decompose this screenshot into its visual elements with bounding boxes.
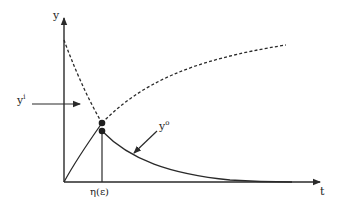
output-label: yo — [159, 120, 169, 132]
x-axis-label: t — [320, 186, 324, 197]
output-label-sup: o — [165, 119, 169, 127]
dashed-increasing-curve — [102, 45, 286, 123]
input-label-sup: i — [23, 93, 25, 101]
switch-time-label: η(ε) — [90, 187, 109, 197]
diagram-canvas: y t yi yo η(ε) — [0, 0, 337, 207]
solid-decaying-curve — [102, 131, 292, 182]
output-arrow — [134, 131, 157, 153]
upper-switch-dot — [99, 120, 106, 127]
y-axis-label: y — [53, 10, 59, 21]
dashed-decreasing-curve — [64, 40, 102, 123]
input-label: yi — [17, 94, 25, 106]
solid-rising-curve — [64, 123, 102, 182]
diagram-svg — [0, 0, 337, 207]
lower-switch-dot — [99, 128, 106, 135]
